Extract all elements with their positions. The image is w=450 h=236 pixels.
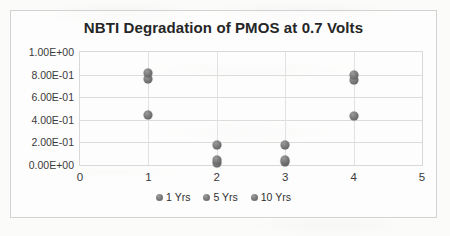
chart-frame: NBTI Degradation of PMOS at 0.7 Volts 0.…: [10, 10, 437, 218]
legend-item[interactable]: 5 Yrs: [203, 191, 237, 203]
legend-marker-icon: [203, 194, 210, 201]
legend-item[interactable]: 10 Yrs: [251, 191, 291, 203]
legend-item[interactable]: 1 Yrs: [156, 191, 190, 203]
data-point: [281, 156, 290, 165]
data-point: [144, 111, 153, 120]
legend-label: 10 Yrs: [261, 191, 291, 203]
y-axis-tick-label: 1.00E+00: [29, 46, 74, 58]
legend-marker-icon: [156, 194, 163, 201]
y-axis-tick-label: 2.00E-01: [31, 136, 74, 148]
legend-label: 1 Yrs: [166, 191, 190, 203]
data-point: [212, 140, 221, 149]
data-point: [281, 140, 290, 149]
legend-marker-icon: [251, 194, 258, 201]
y-axis-tick-label: 8.00E-01: [31, 69, 74, 81]
data-point: [349, 70, 358, 79]
plot-area: 0.00E+002.00E-014.00E-016.00E-018.00E-01…: [79, 51, 423, 166]
chart-legend: 1 Yrs5 Yrs10 Yrs: [11, 191, 436, 203]
y-gridline: [80, 97, 422, 98]
x-axis-tick-label: 3: [282, 171, 288, 183]
x-axis-tick-label: 0: [77, 171, 83, 183]
y-gridline: [80, 142, 422, 143]
x-axis-tick-label: 4: [350, 171, 356, 183]
x-axis-tick-label: 1: [145, 171, 151, 183]
x-axis-tick-label: 5: [419, 171, 425, 183]
y-axis-tick-label: 4.00E-01: [31, 114, 74, 126]
x-axis-tick-label: 2: [214, 171, 220, 183]
legend-label: 5 Yrs: [213, 191, 237, 203]
chart-title: NBTI Degradation of PMOS at 0.7 Volts: [11, 19, 436, 36]
y-axis-tick-label: 0.00E+00: [29, 159, 74, 171]
data-point: [144, 69, 153, 78]
data-point: [212, 156, 221, 165]
data-point: [349, 112, 358, 121]
y-gridline: [80, 75, 422, 76]
y-gridline: [80, 120, 422, 121]
x-gridline: [354, 52, 355, 165]
y-axis-tick-label: 6.00E-01: [31, 91, 74, 103]
